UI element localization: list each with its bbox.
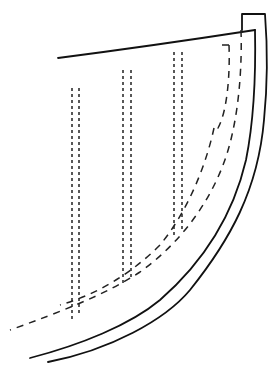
sheer-line xyxy=(58,30,255,58)
stem-post-top xyxy=(48,14,267,362)
dashed-rabbet-lines xyxy=(10,30,241,330)
vertical-frame-lines xyxy=(72,52,182,322)
stem-diagram xyxy=(0,0,275,366)
bearding-line xyxy=(60,128,214,305)
diagram-canvas xyxy=(0,0,275,366)
rabbet-line-outer xyxy=(10,30,241,330)
stem-inner-curve xyxy=(30,30,255,358)
solid-outline-lines xyxy=(30,14,267,362)
rabbet-line-inner xyxy=(214,45,229,128)
